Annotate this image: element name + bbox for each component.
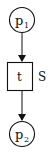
place-p1-label: p <box>15 13 23 28</box>
place-p2: p 2 <box>10 122 35 147</box>
petri-net-diagram: p 1 t S p 2 <box>0 0 52 156</box>
transition-side-label: S <box>38 70 46 84</box>
transition-t: t <box>8 63 33 91</box>
transition-label: t <box>17 70 22 84</box>
place-p1-subscript: 1 <box>24 21 29 30</box>
place-p2-subscript: 2 <box>24 135 29 144</box>
place-p2-label: p <box>15 127 23 142</box>
place-p1: p 1 <box>10 8 35 33</box>
